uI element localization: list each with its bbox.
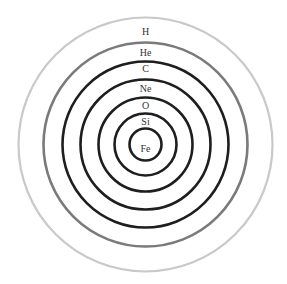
label-h: H: [142, 26, 149, 37]
label-ne: Ne: [140, 83, 152, 94]
label-he: He: [140, 47, 152, 58]
label-o: O: [142, 100, 149, 111]
onion-layer-diagram: H He C Ne O Si Fe: [0, 0, 287, 284]
label-si: Si: [141, 116, 150, 127]
label-fe: Fe: [141, 143, 152, 154]
label-c: C: [142, 63, 149, 74]
shell-labels: H He C Ne O Si Fe: [140, 26, 152, 154]
